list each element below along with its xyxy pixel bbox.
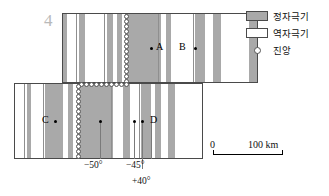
sample-point-c-label: C xyxy=(42,115,49,125)
stripe-normal xyxy=(213,14,221,82)
stripe-normal xyxy=(168,84,175,158)
legend-item-normal-polarity: 정자극기 xyxy=(246,9,326,23)
stripe-hairline xyxy=(104,14,105,82)
legend-label-reversed-polarity: 역자극기 xyxy=(273,26,309,40)
sample-point-a-label: A xyxy=(156,42,163,52)
stripe-normal xyxy=(123,84,130,158)
scale-bar-tick-left xyxy=(213,150,214,155)
stripe-normal xyxy=(77,84,113,158)
leader-line-minus-50 xyxy=(100,123,101,159)
reversed-polarity-swatch-icon xyxy=(246,28,268,38)
legend-item-epicenter: 진앙 xyxy=(246,43,326,57)
stripe-reversed xyxy=(205,14,213,82)
axis-label-plus-40: +40° xyxy=(132,176,151,186)
epicenter-circle-icon xyxy=(246,47,268,54)
sample-point-a-marker xyxy=(150,47,153,50)
axis-label-minus-50: −50° xyxy=(84,160,103,170)
figure-root: 4 xyxy=(0,0,329,196)
scale-bar: 0 100 km xyxy=(210,139,320,161)
stripe-reversed xyxy=(175,84,203,158)
stripe-reversed xyxy=(67,14,79,82)
legend-label-epicenter: 진앙 xyxy=(273,43,291,57)
axis-label-minus-45: −45° xyxy=(126,160,145,170)
leader-line-d xyxy=(151,123,152,159)
sample-point-c-marker xyxy=(54,120,57,123)
scale-bar-value-label: 100 km xyxy=(248,139,278,150)
legend-label-normal-polarity: 정자극기 xyxy=(273,9,309,23)
stripe-reversed xyxy=(113,84,123,158)
stripe-reversed xyxy=(161,84,168,158)
stripe-hairline xyxy=(139,84,140,158)
stripe-hairline xyxy=(76,14,77,82)
stripe-reversed xyxy=(15,84,27,158)
leader-line-minus-45 xyxy=(134,123,135,159)
scale-bar-tick-right xyxy=(282,150,283,155)
normal-polarity-swatch-icon xyxy=(246,11,268,21)
legend-item-reversed-polarity: 역자극기 xyxy=(246,26,326,40)
scale-bar-line xyxy=(213,154,283,155)
sample-point-b-marker xyxy=(194,47,197,50)
stripe-hairline xyxy=(24,84,25,158)
stripe-reversed xyxy=(221,14,249,82)
legend: 정자극기 역자극기 진앙 xyxy=(246,9,326,60)
question-number: 4 xyxy=(44,12,53,29)
scale-bar-zero-label: 0 xyxy=(210,139,215,150)
stripe-hairline xyxy=(111,84,112,158)
sample-point-b-label: B xyxy=(179,42,186,52)
